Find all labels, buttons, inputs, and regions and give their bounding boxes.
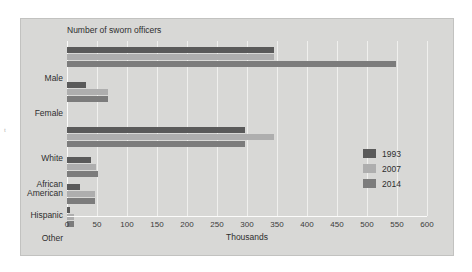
scan-artifact: t — [4, 126, 11, 135]
bar-group — [67, 47, 427, 67]
bar — [67, 171, 98, 177]
bar — [67, 47, 274, 53]
bar — [67, 164, 96, 170]
bar — [67, 134, 274, 140]
bar — [67, 96, 108, 102]
x-tick-label: 450 — [322, 220, 352, 230]
legend-item: 2007 — [363, 161, 438, 176]
legend: 199320072014 — [363, 146, 438, 191]
x-tick-label: 550 — [382, 220, 412, 230]
x-axis-title: Thousands — [67, 232, 427, 242]
bar — [67, 141, 245, 147]
bar-group — [67, 82, 427, 102]
x-tick-label: 300 — [232, 220, 262, 230]
bar-group — [67, 127, 427, 147]
category-label: Female — [20, 109, 63, 119]
bar — [67, 184, 80, 190]
x-tick-label: 500 — [352, 220, 382, 230]
bar — [67, 61, 396, 67]
x-tick-label: 50 — [82, 220, 112, 230]
category-axis-labels: MaleFemaleWhiteAfricanAmericanHispanicOt… — [20, 63, 63, 238]
x-tick-label: 600 — [412, 220, 442, 230]
legend-swatch — [363, 164, 376, 173]
x-tick-label: 150 — [142, 220, 172, 230]
bar — [67, 89, 108, 95]
category-label: White — [20, 154, 63, 164]
x-tick-label: 350 — [262, 220, 292, 230]
legend-item: 2014 — [363, 176, 438, 191]
legend-label: 1993 — [382, 149, 401, 159]
bar — [67, 207, 70, 213]
category-label: Other — [20, 234, 63, 244]
x-tick-label: 200 — [172, 220, 202, 230]
chart-title: Number of sworn officers — [67, 25, 161, 35]
bar — [67, 127, 245, 133]
category-label: Male — [20, 74, 63, 84]
legend-swatch — [363, 179, 376, 188]
legend-swatch — [363, 149, 376, 158]
bar — [67, 191, 95, 197]
legend-label: 2007 — [382, 164, 401, 174]
x-tick-label: 400 — [292, 220, 322, 230]
bar — [67, 157, 91, 163]
x-tick-label: 100 — [112, 220, 142, 230]
bar — [67, 54, 274, 60]
legend-label: 2014 — [382, 179, 401, 189]
x-axis-line — [67, 216, 427, 217]
bar — [67, 82, 86, 88]
x-tick-label: 0 — [52, 220, 82, 230]
chart-figure: Number of sworn officers MaleFemaleWhite… — [20, 18, 454, 256]
x-tick-label: 250 — [202, 220, 232, 230]
category-label: AfricanAmerican — [20, 180, 63, 199]
legend-item: 1993 — [363, 146, 438, 161]
bar — [67, 198, 95, 204]
